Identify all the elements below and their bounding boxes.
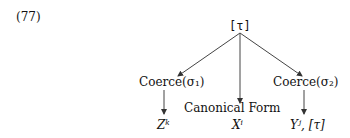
edge-root-coerce2 — [240, 33, 302, 76]
result-z: Zᵏ — [157, 118, 170, 132]
root-node: [τ] — [229, 19, 251, 33]
node-coerce-sigma1: Coerce(σ₁) — [139, 75, 204, 89]
node-canonical-form: Canonical Form — [184, 101, 280, 115]
node-coerce-sigma2: Coerce(σ₂) — [273, 75, 338, 89]
result-x: Xⁱ — [232, 118, 243, 132]
example-number: (77) — [16, 10, 41, 24]
edge-root-coerce1 — [178, 33, 240, 76]
result-y: Yʲ, [τ] — [290, 118, 325, 132]
